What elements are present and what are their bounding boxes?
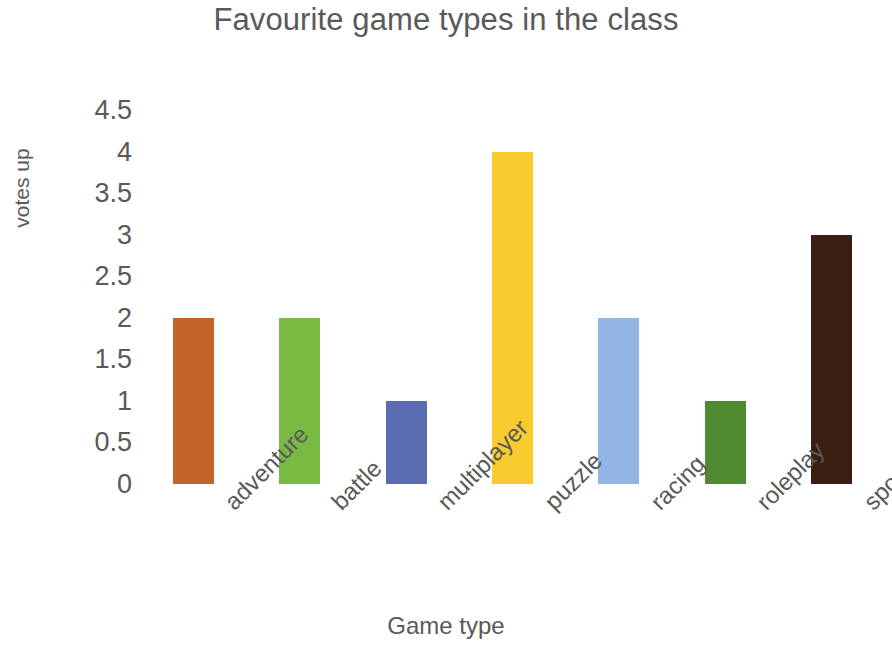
x-axis-tick-label: battle [326, 496, 346, 516]
bar [598, 318, 639, 484]
y-axis-tick-label: 2.5 [38, 263, 132, 290]
y-axis-tick-labels: 4.543.532.521.510.50 [38, 0, 132, 650]
y-axis-tick-label: 0.5 [38, 429, 132, 456]
bar-chart: Favourite game types in the class votes … [0, 0, 892, 650]
x-axis-tick-label: puzzle [539, 496, 559, 516]
x-axis-tick-label: sports [858, 496, 878, 516]
y-axis-tick-label: 4.5 [38, 97, 132, 124]
y-axis-tick-label: 3 [38, 221, 132, 248]
x-axis-tick-label: racing [645, 496, 665, 516]
y-axis-tick-label: 2 [38, 304, 132, 331]
x-axis-tick-labels: adventurebattlemultiplayerpuzzleracingro… [140, 484, 885, 604]
y-axis-title: votes up [10, 108, 34, 268]
y-axis-tick-label: 4 [38, 138, 132, 165]
x-axis-tick-label: adventure [219, 496, 239, 516]
y-axis-tick-label: 3.5 [38, 180, 132, 207]
chart-title: Favourite game types in the class [0, 2, 892, 38]
bar [386, 401, 427, 484]
x-axis-tick-label: roleplay [751, 496, 771, 516]
bar [705, 401, 746, 484]
y-axis-tick-label: 1 [38, 387, 132, 414]
x-axis-tick-label: multiplayer [432, 496, 452, 516]
y-axis-tick-label: 0 [38, 471, 132, 498]
bar [173, 318, 214, 484]
x-axis-title: Game type [0, 612, 892, 640]
y-axis-tick-label: 1.5 [38, 346, 132, 373]
